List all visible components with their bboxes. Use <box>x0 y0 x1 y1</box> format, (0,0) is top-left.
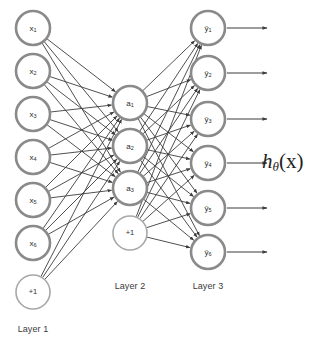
edge-b2-to-y6 <box>147 237 190 247</box>
node-a1[interactable]: a1 <box>113 86 147 120</box>
node-y6[interactable]: ŷ6 <box>191 235 225 269</box>
node-label-b2: +1 <box>126 228 135 237</box>
node-y2[interactable]: ŷ2 <box>191 56 225 90</box>
node-y4[interactable]: ŷ4 <box>191 146 225 180</box>
layer-caption-layer3: Layer 3 <box>193 281 224 291</box>
node-x2[interactable]: x2 <box>16 54 50 88</box>
node-a3[interactable]: a3 <box>113 171 147 205</box>
edge-x5-to-a3 <box>50 190 111 198</box>
node-x4[interactable]: x4 <box>16 140 50 174</box>
hypothesis-label: hθ(x) <box>262 149 303 174</box>
edges-layer1-to-layer2 <box>41 39 122 280</box>
node-x5[interactable]: x5 <box>16 183 50 217</box>
node-y5[interactable]: ŷ5 <box>191 191 225 225</box>
node-b1[interactable]: +1 <box>16 275 50 309</box>
edge-x2-to-a1 <box>50 76 113 97</box>
layer-caption-layer1: Layer 1 <box>18 324 49 334</box>
edge-a3-to-y6 <box>144 199 194 240</box>
edge-x4-to-a1 <box>48 112 114 148</box>
node-y1[interactable]: ŷ1 <box>191 11 225 45</box>
edge-b2-to-y5 <box>147 214 191 228</box>
node-x6[interactable]: x6 <box>16 226 50 260</box>
edge-b1-to-a3 <box>45 202 117 280</box>
node-y3[interactable]: ŷ3 <box>191 102 225 136</box>
node-x3[interactable]: x3 <box>16 97 50 131</box>
node-b2[interactable]: +1 <box>113 216 147 250</box>
edge-x1-to-a3 <box>42 43 120 172</box>
node-x1[interactable]: x1 <box>16 11 50 45</box>
edge-x5-to-a1 <box>45 116 117 188</box>
output-arrows <box>227 28 267 252</box>
node-label-b1: +1 <box>29 287 38 296</box>
layer-caption-layer2: Layer 2 <box>115 281 146 291</box>
edge-x1-to-a1 <box>47 39 116 92</box>
edge-x2-to-a3 <box>44 84 118 173</box>
edge-b2-to-y3 <box>140 134 198 218</box>
neural-network-diagram: x1x2x3x4x5x6+1a1a2a3+1ŷ1ŷ2ŷ3ŷ4ŷ5ŷ6 Layer… <box>0 0 324 343</box>
edge-a2-to-y1 <box>140 43 198 131</box>
edge-x4-to-a3 <box>50 162 113 182</box>
node-a2[interactable]: a2 <box>113 129 147 163</box>
edge-x3-to-a1 <box>50 105 111 112</box>
